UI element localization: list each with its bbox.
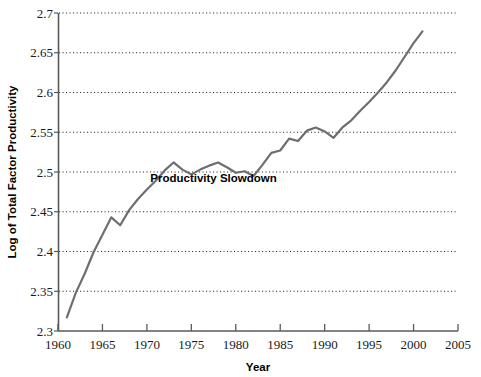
x-tick-label: 1970 [134, 337, 160, 352]
y-tick-label: 2.45 [30, 204, 53, 219]
x-tick-label: 1975 [178, 337, 204, 352]
chart-container: 1960196519701975198019851990199520002005… [0, 0, 481, 377]
tfp-line-chart: 1960196519701975198019851990199520002005… [0, 0, 481, 377]
x-tick-label: 1965 [89, 337, 115, 352]
y-tick-label: 2.55 [30, 125, 53, 140]
y-tick-label: 2.7 [37, 6, 54, 21]
x-tick-label: 2005 [445, 337, 471, 352]
y-tick-label: 2.6 [37, 85, 54, 100]
x-tick-label: 1990 [312, 337, 338, 352]
productivity-slowdown-annotation: Productivity Slowdown [150, 172, 277, 184]
y-tick-label: 2.3 [37, 324, 53, 339]
y-tick-label: 2.65 [30, 45, 53, 60]
x-tick-label: 2000 [401, 337, 427, 352]
annotation-group: Productivity Slowdown [150, 172, 277, 184]
y-tick-label: 2.4 [37, 244, 54, 259]
x-tick-label: 1960 [45, 337, 71, 352]
y-tick-label: 2.5 [37, 165, 53, 180]
y-axis-title: Log of Total Factor Productivity [6, 85, 18, 259]
x-axis-title: Year [246, 361, 271, 373]
chart-background [0, 0, 481, 377]
x-tick-label: 1995 [356, 337, 382, 352]
y-tick-label: 2.35 [30, 284, 53, 299]
x-tick-label: 1985 [267, 337, 293, 352]
x-tick-label: 1980 [223, 337, 249, 352]
